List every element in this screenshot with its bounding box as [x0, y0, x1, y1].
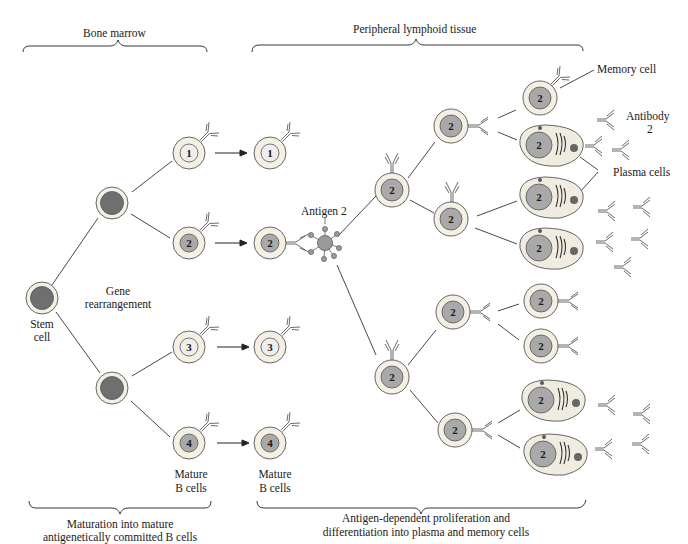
b-cell-3-marrow: 3 [173, 316, 219, 363]
memory-cell-lower: 2 [524, 329, 578, 363]
memory-cell-top: 2 [523, 66, 570, 115]
b-cell-4-peripheral: 4 [254, 412, 300, 459]
b-cell-2-marrow: 2 [173, 212, 219, 259]
bone-marrow-brace [23, 40, 207, 52]
svg-text:2: 2 [186, 237, 192, 249]
svg-text:2: 2 [536, 191, 542, 203]
b-cell-3-peripheral: 3 [254, 316, 300, 363]
plasma-cells-label: Plasma cells [613, 166, 671, 178]
svg-text:4: 4 [186, 437, 192, 449]
svg-text:4: 4 [267, 437, 273, 449]
svg-text:2: 2 [536, 242, 542, 254]
dividing-b-cell-d: 2 [438, 413, 492, 447]
antibody-label-line2: 2 [647, 123, 653, 135]
stem-cell-label-line2: cell [34, 331, 51, 343]
activated-b-cell-top: 2 [375, 153, 409, 207]
svg-text:2: 2 [452, 424, 458, 436]
b-cell-4-marrow: 4 [173, 412, 219, 459]
svg-text:2: 2 [538, 394, 544, 406]
mature-b-cells-peripheral-line2: B cells [259, 482, 291, 494]
memory-cell-label: Memory cell [597, 63, 656, 76]
mature-b-cells-peripheral-line1: Mature [258, 468, 291, 480]
svg-text:2: 2 [389, 184, 395, 196]
svg-text:2: 2 [448, 213, 454, 225]
gene-rearrangement-line2: rearrangement [85, 298, 152, 311]
dividing-b-cell-b: 2 [434, 182, 468, 236]
gene-rearrangement-line1: Gene [106, 285, 130, 297]
maturation-caption-line2: antigenetically committed B cells [43, 531, 198, 544]
b-cell-2-peripheral: 2 [254, 227, 309, 259]
antigen-2 [308, 218, 341, 262]
memory-cell-middle: 2 [524, 284, 578, 318]
stem-cell-label-line1: Stem [30, 318, 54, 330]
svg-text:2: 2 [537, 92, 543, 104]
svg-text:3: 3 [267, 341, 273, 353]
b-cell-1-marrow: 1 [173, 122, 219, 169]
activated-b-cell-bottom: 2 [375, 340, 409, 394]
proliferation-caption-line1: Antigen-dependent proliferation and [342, 512, 510, 525]
svg-text:1: 1 [186, 147, 192, 159]
svg-text:2: 2 [536, 139, 542, 151]
mature-b-cells-marrow-line1: Mature [174, 468, 207, 480]
plasma-cell-4: 2 [522, 380, 585, 421]
maturation-arrows [215, 150, 249, 446]
maturation-caption-line1: Maturation into mature [67, 518, 174, 530]
b-cell-1-peripheral: 1 [254, 122, 300, 169]
peripheral-lymphoid-label: Peripheral lymphoid tissue [353, 23, 476, 36]
free-antibodies [585, 110, 650, 459]
peripheral-brace [252, 39, 583, 52]
progenitor-cell-top [96, 187, 128, 219]
antigen-label: Antigen 2 [301, 205, 347, 218]
plasma-cell-1: 2 [520, 125, 583, 166]
maturation-brace [29, 501, 211, 514]
svg-text:2: 2 [538, 295, 544, 307]
proliferation-caption-line2: differentiation into plasma and memory c… [323, 526, 530, 539]
svg-text:2: 2 [450, 306, 456, 318]
plasma-cell-3: 2 [520, 228, 583, 269]
svg-text:2: 2 [540, 448, 546, 460]
dividing-b-cell-a: 2 [434, 109, 488, 143]
svg-text:2: 2 [389, 371, 395, 383]
antibody-label-line1: Antibody [626, 110, 670, 123]
b-cell-diagram: Bone marrow Peripheral lymphoid tissue [0, 0, 688, 544]
svg-text:2: 2 [538, 340, 544, 352]
plasma-cell-2: 2 [520, 177, 583, 218]
dividing-b-cell-c: 2 [436, 295, 490, 329]
svg-text:2: 2 [267, 237, 273, 249]
mature-b-cells-marrow-line2: B cells [175, 482, 207, 494]
svg-text:2: 2 [448, 120, 454, 132]
plasma-cell-5: 2 [524, 434, 587, 475]
stem-cell [26, 282, 58, 314]
progenitor-cell-bottom [96, 372, 128, 404]
svg-text:3: 3 [186, 341, 192, 353]
bone-marrow-label: Bone marrow [83, 27, 147, 39]
svg-text:1: 1 [267, 147, 273, 159]
